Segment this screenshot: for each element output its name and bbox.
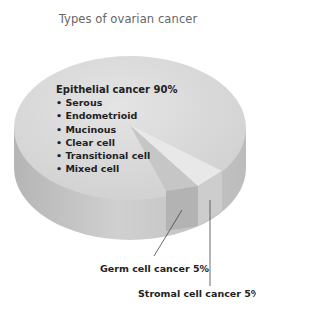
epithelial-heading: Epithelial cancer 90% [56,83,177,96]
germ-side [166,186,198,231]
epithelial-label: Epithelial cancer 90% Serous Endometrioi… [56,83,177,175]
subtype-item: Serous [56,96,177,109]
epithelial-subtypes: Serous Endometrioid Mucinous Clear cell … [56,96,177,175]
subtype-item: Endometrioid [56,109,177,122]
subtype-item: Clear cell [56,136,177,149]
subtype-item: Transitional cell [56,149,177,162]
subtype-item: Mucinous [56,123,177,136]
subtype-item: Mixed cell [56,162,177,175]
germ-cell-label: Germ cell cancer 5% [100,262,209,275]
stromal-cell-label: Stromal cell cancer 5% [138,287,256,300]
